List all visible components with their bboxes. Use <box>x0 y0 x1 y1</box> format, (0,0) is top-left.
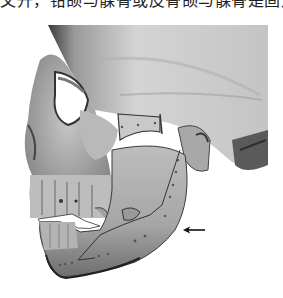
skull-3d-ct-figure <box>0 20 283 298</box>
arrow-left-icon <box>183 225 205 235</box>
zygomatic-arch-plate <box>118 114 162 140</box>
cropped-text-line: 文开，钳颌与髁骨或皮骨颌与髁骨是固定板。 <box>0 0 283 11</box>
